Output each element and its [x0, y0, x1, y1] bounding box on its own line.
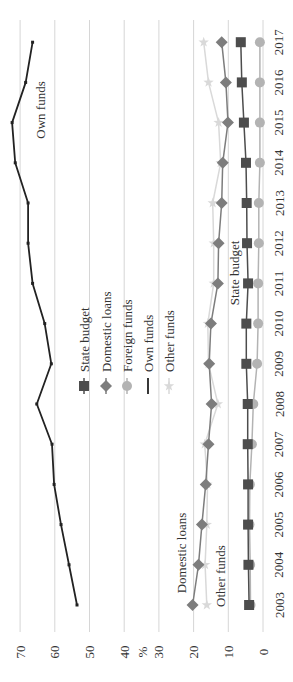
funding-sources-chart: 010203040506070 % 2003200420052006200720…: [0, 0, 293, 682]
legend-label: Foreign funds: [120, 299, 135, 372]
year-tick-label: 2012: [272, 230, 287, 256]
year-tick-label: 2017: [272, 29, 287, 56]
legend-label: Own funds: [141, 315, 156, 372]
diamond-marker-icon: [203, 358, 215, 370]
legend-item-other-funds: Other funds: [162, 310, 177, 394]
square-marker-icon: [242, 198, 252, 208]
diamond-marker-icon: [200, 478, 212, 490]
value-axis-label: %: [135, 646, 150, 657]
legend: State budgetDomestic loansForeign fundsO…: [77, 291, 177, 394]
annotation-other-funds: Other funds: [213, 545, 228, 607]
legend-item-foreign-funds: Foreign funds: [120, 299, 135, 394]
value-tick-label: 20: [186, 646, 201, 659]
square-marker-icon: [79, 381, 89, 391]
value-tick-label: 60: [47, 646, 62, 659]
year-tick-label: 2010: [272, 311, 287, 337]
year-axis-ticks: 2003200420052006200720082009201020112012…: [272, 29, 287, 618]
square-marker-icon: [243, 479, 253, 489]
square-marker-icon: [239, 118, 249, 128]
square-marker-icon: [242, 238, 252, 248]
value-tick-label: 40: [117, 646, 132, 659]
diamond-marker-icon: [205, 318, 217, 330]
legend-item-own-funds: Own funds: [141, 315, 156, 394]
year-tick-label: 2015: [272, 110, 287, 136]
circle-marker-icon: [255, 77, 265, 87]
value-tick-label: 70: [13, 646, 28, 659]
legend-label: Domestic loans: [99, 291, 114, 372]
circle-marker-icon: [254, 238, 264, 248]
square-marker-icon: [237, 77, 247, 87]
year-tick-label: 2005: [272, 512, 287, 538]
square-marker-icon: [244, 600, 254, 610]
year-tick-label: 2003: [272, 592, 287, 618]
circle-marker-icon: [122, 381, 132, 391]
annotation-state-budget: State budget: [227, 240, 242, 305]
square-marker-icon: [241, 359, 251, 369]
year-tick-label: 2013: [272, 190, 287, 216]
square-marker-icon: [241, 158, 251, 168]
square-marker-icon: [243, 560, 253, 570]
annotation-domestic-loans: Domestic loans: [174, 513, 189, 594]
square-marker-icon: [236, 37, 246, 47]
circle-marker-icon: [253, 319, 263, 329]
circle-marker-icon: [254, 198, 264, 208]
year-tick-label: 2011: [272, 271, 287, 297]
circle-marker-icon: [255, 158, 265, 168]
year-tick-label: 2014: [272, 149, 287, 176]
star-marker-icon: [202, 600, 212, 610]
circle-marker-icon: [253, 278, 263, 288]
legend-item-domestic-loans: Domestic loans: [99, 291, 114, 394]
square-marker-icon: [243, 278, 253, 288]
circle-marker-icon: [252, 359, 262, 369]
square-marker-icon: [243, 520, 253, 530]
value-tick-label: 50: [82, 646, 97, 659]
diamond-marker-icon: [222, 117, 234, 129]
year-tick-label: 2016: [272, 69, 287, 96]
year-tick-label: 2008: [272, 391, 287, 417]
diamond-marker-icon: [220, 76, 232, 88]
diamond-marker-icon: [217, 157, 229, 169]
diamond-marker-icon: [192, 559, 204, 571]
legend-label: State budget: [77, 307, 92, 372]
diamond-marker-icon: [216, 36, 228, 48]
value-tick-label: 0: [256, 649, 271, 656]
year-tick-label: 2009: [272, 351, 287, 377]
diamond-marker-icon: [216, 197, 228, 209]
year-tick-label: 2006: [272, 471, 287, 498]
square-marker-icon: [243, 399, 253, 409]
value-tick-label: 10: [221, 646, 236, 659]
diamond-marker-icon: [187, 599, 199, 611]
square-marker-icon: [243, 439, 253, 449]
year-tick-label: 2007: [272, 431, 287, 458]
circle-marker-icon: [255, 37, 265, 47]
circle-marker-icon: [255, 118, 265, 128]
diamond-marker-icon: [100, 380, 112, 392]
year-tick-label: 2004: [272, 551, 287, 578]
square-marker-icon: [241, 319, 251, 329]
value-tick-label: 30: [151, 646, 166, 659]
series-state-budget: [236, 37, 254, 610]
annotation-own-funds: Own funds: [33, 81, 48, 138]
legend-label: Other funds: [162, 310, 177, 372]
series-lines: [11, 36, 265, 611]
